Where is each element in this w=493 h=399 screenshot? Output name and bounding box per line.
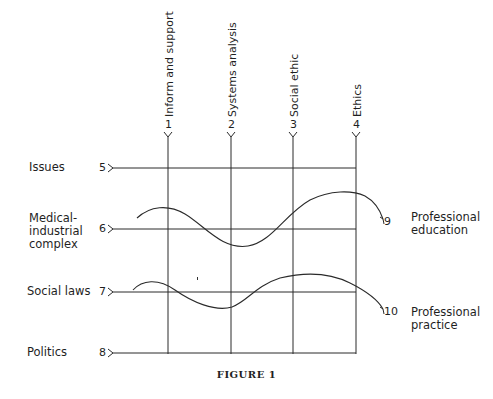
row-label-medical-industrial-complex: Medical- industrial complex	[29, 212, 83, 251]
column-label-3: Social ethic	[288, 54, 301, 117]
row-number-6: 6	[99, 222, 106, 235]
chevron-right-icon	[108, 225, 113, 233]
row-label-social-laws: Social laws	[27, 285, 90, 298]
column-number-1: 1	[165, 118, 172, 131]
chevron-down-icon	[164, 132, 172, 137]
column-label-1: Inform and support	[163, 11, 176, 117]
curve-number-9: 9	[384, 215, 391, 228]
column-number-4: 4	[353, 118, 360, 131]
curve-label-professional-education: Professional education	[411, 211, 480, 237]
curve-label-line: practice	[411, 319, 480, 332]
chevron-down-icon	[289, 132, 297, 137]
diagram-lines	[0, 0, 493, 399]
chevron-down-icon	[227, 132, 235, 137]
row-number-5: 5	[99, 161, 106, 174]
row-label-line: complex	[29, 238, 83, 251]
column-number-2: 2	[228, 118, 235, 131]
curve-number-10: 10	[384, 305, 398, 318]
curve-professional-education	[137, 192, 383, 247]
curve-label-professional-practice: Professional practice	[411, 306, 480, 332]
column-number-3: 3	[290, 118, 297, 131]
figure-diagram: Inform and support Systems analysis Soci…	[0, 0, 493, 399]
column-label-4: Ethics	[351, 84, 364, 117]
chevron-right-icon	[108, 164, 113, 172]
column-label-2: Systems analysis	[226, 22, 239, 117]
chevron-down-icon	[352, 132, 360, 137]
stray-mark	[197, 277, 198, 280]
curve-label-line: education	[411, 224, 480, 237]
chevron-right-icon	[108, 349, 113, 357]
row-label-politics: Politics	[27, 346, 67, 359]
figure-caption: FIGURE 1	[0, 369, 493, 380]
row-label-issues: Issues	[29, 161, 65, 174]
row-number-8: 8	[99, 346, 106, 359]
chevron-right-icon	[108, 288, 113, 296]
row-number-7: 7	[99, 285, 106, 298]
